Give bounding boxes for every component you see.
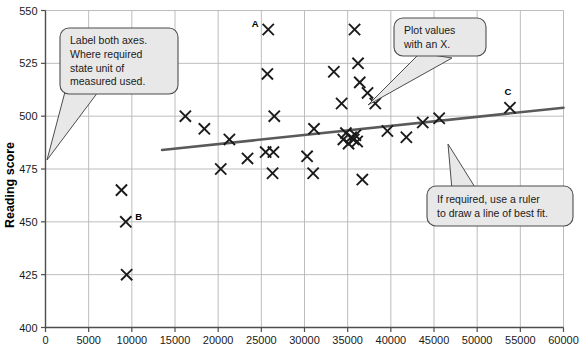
data-point-marker — [504, 102, 515, 113]
y-tick-label: 400 — [19, 322, 37, 334]
data-point-marker — [328, 66, 339, 77]
data-point-marker — [199, 123, 210, 134]
y-tick-label: 550 — [19, 5, 37, 17]
data-point-marker — [434, 113, 445, 124]
data-point-marker — [336, 98, 347, 109]
callout-text-line: state unit of — [70, 62, 124, 74]
x-tick-label: 45000 — [419, 334, 450, 346]
callout-use-ruler: If required, use a rulerto draw a line o… — [427, 144, 573, 226]
data-point-marker — [262, 68, 273, 79]
x-tick-label: 20000 — [203, 334, 234, 346]
callout-pointer — [448, 144, 478, 192]
callout-text-line: Label both axes. — [70, 34, 147, 46]
x-tick-label: 5000 — [76, 334, 100, 346]
x-tick-label: 0 — [42, 334, 48, 346]
x-tick-label: 10000 — [117, 334, 148, 346]
chart-canvas: 0500010000150002000025000300003500040000… — [0, 0, 587, 351]
data-point-marker — [263, 24, 274, 35]
x-tick-label: 55000 — [505, 334, 536, 346]
callout-pointer — [47, 88, 98, 160]
data-point-label: C — [505, 86, 512, 97]
data-point-label: A — [252, 18, 259, 29]
callout-text-line: measured used. — [70, 75, 145, 87]
data-point-marker — [401, 132, 412, 143]
y-tick-label: 450 — [19, 216, 37, 228]
callout-text-line: Where required — [70, 48, 143, 60]
data-point-marker — [242, 153, 253, 164]
callout-text-line: to draw a line of best fit. — [437, 207, 548, 219]
callout-text-line: If required, use a ruler — [437, 193, 540, 205]
data-point-marker — [349, 24, 360, 35]
callout-text-line: with an X. — [403, 38, 450, 50]
callout-pointer — [368, 53, 452, 105]
x-tick-label: 40000 — [376, 334, 407, 346]
callout-plot-values: Plot valueswith an X. — [368, 18, 486, 105]
x-tick-label: 25000 — [246, 334, 277, 346]
x-tick-label: 30000 — [289, 334, 320, 346]
y-tick-label: 525 — [19, 57, 37, 69]
y-tick-label: 475 — [19, 163, 37, 175]
callout-label-axes: Label both axes.Where requiredstate unit… — [47, 28, 178, 160]
x-tick-label: 60000 — [548, 334, 579, 346]
data-point-marker — [357, 174, 368, 185]
scatter-plot-figure: 0500010000150002000025000300003500040000… — [0, 0, 587, 351]
data-point-marker — [362, 87, 373, 98]
data-point-marker — [268, 146, 279, 157]
data-point-marker — [116, 185, 127, 196]
y-tick-label: 500 — [19, 110, 37, 122]
callout-text-line: Plot values — [404, 24, 455, 36]
x-tick-label: 15000 — [160, 334, 191, 346]
trend-line — [162, 108, 563, 150]
data-point-marker — [354, 77, 365, 88]
y-tick-label: 425 — [19, 269, 37, 281]
line-of-best-fit — [162, 108, 563, 150]
x-tick-label: 35000 — [332, 334, 363, 346]
data-point-label: B — [135, 211, 142, 222]
data-point-marker — [301, 151, 312, 162]
y-axis-title: Reading score — [3, 142, 17, 228]
x-tick-label: 50000 — [462, 334, 493, 346]
